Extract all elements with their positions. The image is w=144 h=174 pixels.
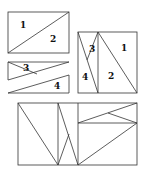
square-figure: 3 1 4 2	[78, 32, 137, 93]
piece-label-3: 3	[23, 63, 29, 73]
square-outline	[78, 32, 137, 93]
combined-diagonal-3	[58, 134, 69, 165]
square-diagonal-left	[78, 32, 98, 93]
piece-label-2: 2	[50, 34, 56, 44]
rectangle-figure: 1 2	[8, 12, 69, 53]
piece-label-2: 2	[108, 71, 114, 81]
piece-label-1: 1	[20, 20, 26, 30]
combined-diagonal-5	[108, 113, 137, 123]
piece-label-3: 3	[89, 44, 95, 54]
combined-figure	[18, 103, 137, 165]
piece-label-1: 1	[121, 43, 127, 53]
combined-outline	[18, 103, 137, 165]
combined-diagonal-6	[78, 123, 137, 165]
piece-label-4: 4	[54, 81, 60, 91]
square-diagonal-right	[98, 32, 137, 93]
strip-figure: 3 4	[8, 62, 69, 93]
rectangle-diagonal	[8, 12, 69, 53]
combined-diagonal-1	[18, 103, 58, 165]
piece-label-4: 4	[82, 72, 88, 82]
dissection-diagram: 1 2 3 4 3 1 4 2	[0, 0, 144, 174]
